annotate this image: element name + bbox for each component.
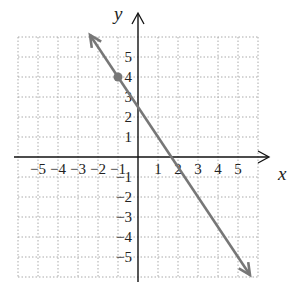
x-tick: −2: [90, 161, 106, 177]
y-tick: 1: [125, 129, 133, 145]
data-points: [114, 73, 123, 82]
x-tick: −3: [70, 161, 86, 177]
y-tick: −5: [116, 249, 132, 265]
x-tick: −5: [30, 161, 46, 177]
y-tick: −3: [116, 209, 132, 225]
y-tick: 4: [125, 69, 133, 85]
y-tick: 5: [125, 49, 133, 65]
x-tick: 1: [154, 161, 162, 177]
y-tick: 2: [125, 109, 133, 125]
x-tick: 5: [234, 161, 242, 177]
y-axis-label: y: [112, 3, 123, 24]
x-tick: 3: [194, 161, 202, 177]
y-axis: [132, 13, 144, 282]
x-tick: 4: [214, 161, 222, 177]
data-point: [114, 73, 123, 82]
x-tick: −4: [50, 161, 66, 177]
y-tick: −1: [116, 169, 132, 185]
y-tick: −2: [116, 189, 132, 205]
coordinate-plane: x y −5−4−3−2−112345 54321−1−2−3−4−5: [0, 0, 299, 288]
x-axis-label: x: [277, 163, 287, 184]
data-line: [90, 35, 250, 275]
y-tick: −4: [116, 229, 132, 245]
x-tick-labels: −5−4−3−2−112345: [30, 161, 242, 177]
